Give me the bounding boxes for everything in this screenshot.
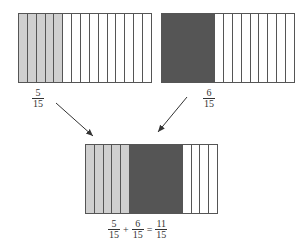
arrows bbox=[0, 0, 305, 248]
left-arrow-icon bbox=[56, 103, 93, 136]
right-arrow-icon bbox=[158, 97, 187, 132]
